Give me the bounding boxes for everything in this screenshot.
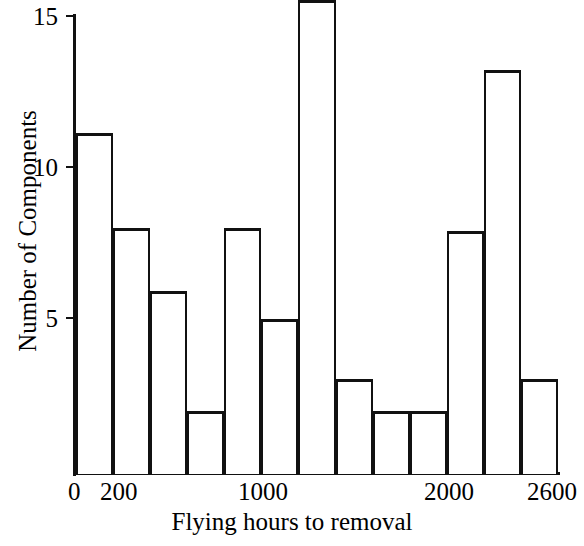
x-tick-label-2000: 2000	[424, 478, 474, 505]
bar-5	[261, 319, 298, 474]
bar-4	[224, 228, 261, 474]
y-tick-mark-5	[66, 317, 75, 319]
bar-11	[484, 70, 521, 474]
x-axis-title: Flying hours to removal	[0, 508, 584, 535]
bar-0	[76, 133, 113, 474]
plot-area	[76, 0, 558, 474]
y-axis-title: Number of Components	[15, 71, 41, 391]
bar-8	[373, 411, 410, 474]
bar-1	[113, 228, 150, 474]
bar-2	[150, 291, 187, 474]
bar-10	[447, 231, 484, 474]
bar-12	[521, 379, 558, 474]
bar-7	[336, 379, 373, 474]
y-tick-label-15: 15	[18, 4, 58, 29]
y-tick-mark-15	[66, 15, 75, 17]
x-tick-label-2600: 2600	[527, 478, 577, 505]
bar-3	[187, 411, 224, 474]
bar-9	[410, 411, 447, 474]
histogram-chart: 15 10 5 0 200 1000 2000 2600 Number of C…	[0, 0, 584, 546]
x-tick-label-200: 200	[100, 478, 138, 505]
bar-6	[298, 0, 336, 474]
y-tick-mark-10	[66, 166, 75, 168]
x-tick-label-1000: 1000	[238, 478, 288, 505]
x-tick-label-0: 0	[68, 478, 81, 505]
